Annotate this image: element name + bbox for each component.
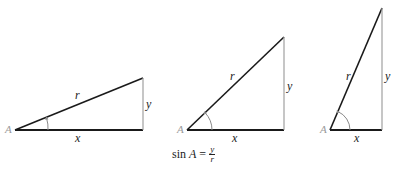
triangle-steep: A r y x xyxy=(319,8,391,145)
angle-arc-icon xyxy=(205,113,212,130)
triangle-shallow: A r y x xyxy=(4,78,152,145)
vertex-label-a: A xyxy=(176,123,184,135)
opposite-label: y xyxy=(384,69,391,83)
formula-func: sin xyxy=(172,147,186,162)
hypotenuse-label: r xyxy=(75,88,80,102)
formula-denominator: r xyxy=(210,155,214,164)
formula-fraction: y r xyxy=(209,145,215,164)
adjacent-label: x xyxy=(74,131,81,145)
triangles-diagram: A r y x A r y x A r y x xyxy=(0,0,397,169)
vertex-label-a: A xyxy=(319,123,327,135)
adjacent-label: x xyxy=(231,131,238,145)
triangle-medium: A r y x xyxy=(176,37,293,145)
hypotenuse-line xyxy=(187,37,284,130)
sine-formula: sin A = y r xyxy=(172,145,215,164)
hypotenuse-label: r xyxy=(230,69,235,83)
opposite-label: y xyxy=(286,79,293,93)
opposite-label: y xyxy=(145,97,152,111)
angle-arc-icon xyxy=(338,112,350,130)
hypotenuse-label: r xyxy=(346,69,351,83)
adjacent-label: x xyxy=(353,131,360,145)
angle-arc-icon xyxy=(47,118,48,130)
formula-var: A xyxy=(189,147,196,162)
vertex-label-a: A xyxy=(4,123,12,135)
hypotenuse-line xyxy=(15,78,143,130)
formula-equals: = xyxy=(199,147,206,162)
